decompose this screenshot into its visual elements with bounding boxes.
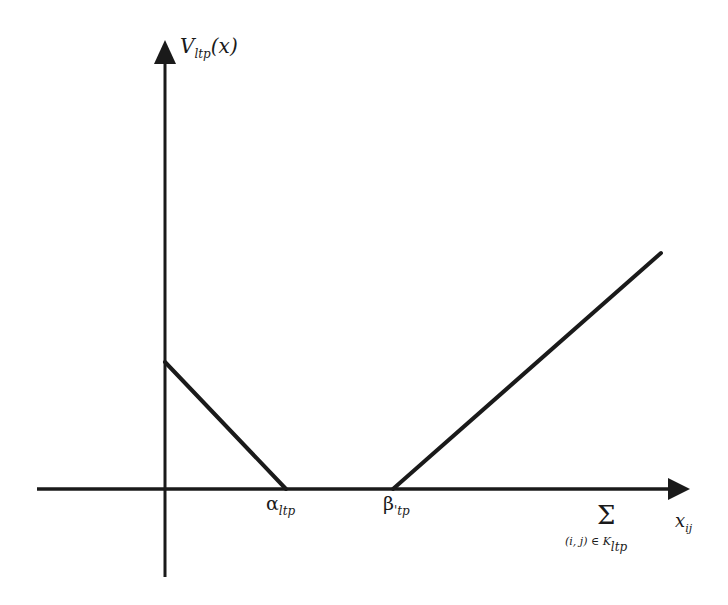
beta-sub: 'tp (394, 504, 410, 518)
summation-index: (i, j) ∈ Kltp (565, 534, 627, 548)
y-label-main: V (180, 34, 194, 58)
increasing-segment (393, 253, 661, 489)
alpha-main: α (266, 492, 279, 514)
summation-symbol: Σ (597, 500, 615, 530)
sum-term-main: x (675, 510, 685, 531)
sum-term-sub: ij (685, 522, 692, 535)
sum-term: xij (675, 510, 692, 531)
y-label-arg: (x) (211, 34, 238, 58)
alpha-sub: ltp (279, 504, 295, 518)
beta-tick-label: β'tp (383, 492, 410, 514)
y-axis-arrow-icon (154, 40, 176, 64)
x-axis-arrow-icon (668, 478, 690, 500)
x-axis-label: Σ (i, j) ∈ Kltp xij (565, 500, 715, 560)
y-axis-label: Vltp(x) (180, 34, 238, 58)
beta-main: β (383, 492, 394, 514)
alpha-tick-label: αltp (266, 492, 295, 514)
y-label-sub: ltp (194, 47, 210, 61)
summation-index-sub: ltp (611, 540, 627, 554)
decreasing-segment (165, 362, 286, 489)
summation-index-main: (i, j) ∈ K (565, 535, 611, 548)
